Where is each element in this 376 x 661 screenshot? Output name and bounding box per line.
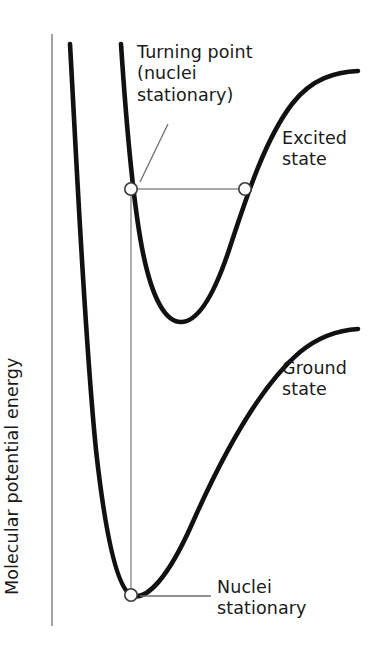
excited-state-left-turning-point-marker[interactable] bbox=[125, 183, 137, 195]
ground-state-label: Ground state bbox=[282, 358, 347, 401]
ground-state-minimum-marker[interactable] bbox=[125, 589, 137, 601]
y-axis-label: Molecular potential energy bbox=[2, 75, 22, 595]
turning-point-leader-line bbox=[140, 124, 168, 182]
excited-state-right-turning-point-marker[interactable] bbox=[239, 183, 251, 195]
turning-point-label: Turning point (nuclei stationary) bbox=[137, 42, 253, 106]
excited-state-label: Excited state bbox=[282, 128, 347, 171]
nuclei-stationary-label: Nuclei stationary bbox=[217, 577, 307, 620]
ground-state-curve bbox=[70, 44, 358, 596]
potential-energy-diagram: Molecular potential energy Turning point… bbox=[0, 0, 376, 661]
